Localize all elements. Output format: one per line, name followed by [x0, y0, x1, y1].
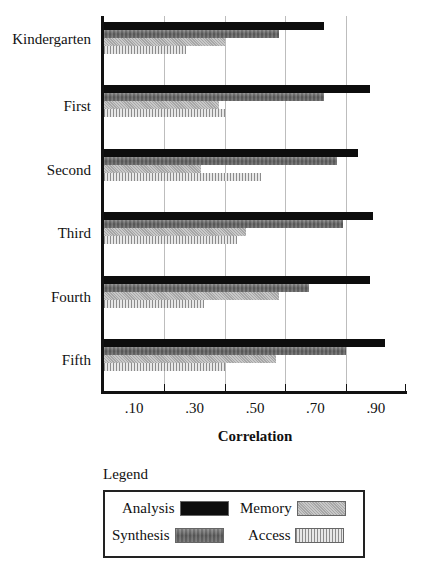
- bar-memory: [104, 292, 279, 300]
- bar-synthesis: [104, 284, 309, 292]
- x-axis-title: Correlation: [104, 428, 406, 445]
- legend-label: Memory: [240, 500, 292, 517]
- y-axis: [101, 16, 104, 394]
- bar-chart: .10.30.50.70.90 KindergartenFirstSecondT…: [0, 0, 421, 460]
- bar-synthesis: [104, 157, 337, 165]
- x-tick: [285, 384, 286, 392]
- legend: Analysis Memory Synthesis Access: [103, 490, 365, 558]
- x-tick-label: .70: [285, 400, 345, 417]
- bar-analysis: [104, 149, 358, 157]
- bar-access: [104, 300, 204, 308]
- bar-access: [104, 109, 225, 117]
- legend-label: Access: [248, 527, 290, 544]
- legend-item-analysis: Analysis: [122, 500, 229, 517]
- bar-access: [104, 46, 186, 54]
- x-tick: [346, 384, 347, 392]
- x-tick-label: .90: [346, 400, 406, 417]
- legend-item-memory: Memory: [240, 500, 346, 517]
- bar-analysis: [104, 276, 370, 284]
- bar-synthesis: [104, 30, 279, 38]
- y-category-label: First: [63, 98, 91, 115]
- x-tick: [225, 384, 226, 392]
- bar-memory: [104, 228, 246, 236]
- gridline: [164, 16, 165, 391]
- bar-synthesis: [104, 220, 343, 228]
- x-tick-label: .50: [225, 400, 285, 417]
- y-category-label: Fourth: [51, 289, 91, 306]
- bar-synthesis: [104, 347, 346, 355]
- bar-memory: [104, 165, 201, 173]
- legend-swatch-synthesis: [175, 528, 224, 543]
- x-tick-label: .10: [104, 400, 164, 417]
- plot-area: [104, 16, 406, 391]
- bar-access: [104, 363, 225, 371]
- legend-item-access: Access: [248, 527, 344, 544]
- legend-swatch-memory: [297, 501, 346, 516]
- bar-analysis: [104, 85, 370, 93]
- y-category-label: Second: [47, 162, 91, 179]
- gridline: [225, 16, 226, 391]
- bar-analysis: [104, 212, 373, 220]
- y-category-label: Fifth: [62, 352, 91, 369]
- x-tick: [164, 384, 165, 392]
- bar-access: [104, 173, 261, 181]
- x-axis: [101, 391, 407, 394]
- legend-swatch-analysis: [180, 501, 229, 516]
- legend-item-synthesis: Synthesis: [112, 527, 224, 544]
- gridline: [285, 16, 286, 391]
- legend-label: Synthesis: [112, 527, 170, 544]
- x-tick: [405, 384, 406, 392]
- legend-label: Analysis: [122, 500, 175, 517]
- bar-synthesis: [104, 93, 324, 101]
- bar-analysis: [104, 22, 324, 30]
- y-category-label: Third: [58, 225, 91, 242]
- y-category-label: Kindergarten: [12, 31, 91, 48]
- x-tick-label: .30: [165, 400, 225, 417]
- legend-swatch-access: [295, 528, 344, 543]
- bar-access: [104, 236, 237, 244]
- legend-title: Legend: [103, 466, 148, 483]
- bar-analysis: [104, 339, 385, 347]
- bar-memory: [104, 355, 276, 363]
- bar-memory: [104, 38, 225, 46]
- gridline: [346, 16, 347, 391]
- bar-memory: [104, 101, 219, 109]
